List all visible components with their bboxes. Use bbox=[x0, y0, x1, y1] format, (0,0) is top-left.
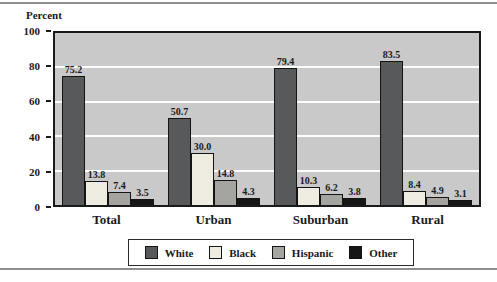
bar-value-label: 13.8 bbox=[88, 169, 106, 180]
x-category-label-urban: Urban bbox=[160, 212, 267, 228]
legend-label: Other bbox=[369, 247, 397, 259]
bar-value-label: 79.4 bbox=[277, 56, 295, 67]
bar-hispanic-suburban: 6.2 bbox=[320, 194, 343, 205]
x-category-label-rural: Rural bbox=[374, 212, 481, 228]
y-tick-mark bbox=[46, 136, 51, 138]
bar-value-label: 14.8 bbox=[217, 168, 235, 179]
y-tick-label: 40 bbox=[29, 131, 40, 143]
legend-label: Black bbox=[229, 247, 256, 259]
y-axis: 020406080100 bbox=[0, 31, 51, 207]
bar-value-label: 10.3 bbox=[300, 175, 318, 186]
y-tick-mark bbox=[46, 65, 51, 67]
legend-swatch-icon bbox=[145, 246, 158, 259]
legend-item-black: Black bbox=[209, 246, 256, 259]
bar-black-rural: 8.4 bbox=[403, 191, 426, 205]
top-rule bbox=[0, 2, 497, 4]
bar-value-label: 6.2 bbox=[325, 182, 338, 193]
bar-value-label: 7.4 bbox=[113, 180, 126, 191]
bottom-rule bbox=[0, 268, 497, 270]
bar-groups: 75.213.87.43.550.730.014.84.379.410.36.2… bbox=[55, 33, 479, 205]
bar-value-label: 3.1 bbox=[454, 188, 467, 199]
y-tick-mark bbox=[46, 100, 51, 102]
legend-item-hispanic: Hispanic bbox=[272, 246, 334, 259]
y-tick-mark bbox=[46, 171, 51, 173]
bar-value-label: 30.0 bbox=[194, 141, 212, 152]
y-tick-label: 0 bbox=[35, 201, 41, 213]
x-category-label-total: Total bbox=[53, 212, 160, 228]
bar-value-label: 4.9 bbox=[431, 185, 444, 196]
bar-black-suburban: 10.3 bbox=[297, 187, 320, 205]
legend-swatch-icon bbox=[272, 246, 285, 259]
bar-value-label: 50.7 bbox=[171, 106, 189, 117]
bar-value-label: 3.8 bbox=[348, 186, 361, 197]
legend-swatch-icon bbox=[209, 246, 222, 259]
legend-item-other: Other bbox=[349, 246, 397, 259]
y-tick-label: 20 bbox=[29, 166, 40, 178]
bar-group-rural: 83.58.44.93.1 bbox=[373, 33, 479, 205]
bar-white-total: 75.2 bbox=[62, 76, 85, 205]
bar-value-label: 3.5 bbox=[136, 187, 149, 198]
bar-value-label: 8.4 bbox=[408, 179, 421, 190]
bar-chart-figure: Percent 020406080100 75.213.87.43.550.73… bbox=[0, 0, 497, 282]
bar-hispanic-rural: 4.9 bbox=[426, 197, 449, 205]
bar-other-total: 3.5 bbox=[131, 199, 154, 205]
y-tick-label: 80 bbox=[29, 60, 40, 72]
bar-other-rural: 3.1 bbox=[449, 200, 472, 205]
legend-swatch-icon bbox=[349, 246, 362, 259]
bar-other-suburban: 3.8 bbox=[343, 198, 366, 205]
bar-group-total: 75.213.87.43.5 bbox=[55, 33, 161, 205]
bar-value-label: 4.3 bbox=[242, 186, 255, 197]
bar-white-rural: 83.5 bbox=[380, 61, 403, 205]
bar-other-urban: 4.3 bbox=[237, 198, 260, 205]
y-tick-mark bbox=[46, 30, 51, 32]
x-category-label-suburban: Suburban bbox=[267, 212, 374, 228]
x-axis-category-labels: TotalUrbanSuburbanRural bbox=[53, 212, 481, 228]
plot-area: 75.213.87.43.550.730.014.84.379.410.36.2… bbox=[53, 31, 481, 207]
bar-group-urban: 50.730.014.84.3 bbox=[161, 33, 267, 205]
bar-black-urban: 30.0 bbox=[191, 153, 214, 205]
bar-hispanic-urban: 14.8 bbox=[214, 180, 237, 205]
y-axis-title: Percent bbox=[26, 9, 62, 21]
legend-item-white: White bbox=[145, 246, 194, 259]
bar-value-label: 75.2 bbox=[65, 64, 83, 75]
bar-hispanic-total: 7.4 bbox=[108, 192, 131, 205]
bar-black-total: 13.8 bbox=[85, 181, 108, 205]
bar-white-suburban: 79.4 bbox=[274, 68, 297, 205]
y-tick-mark bbox=[46, 206, 51, 208]
legend-label: Hispanic bbox=[292, 247, 334, 259]
bar-white-urban: 50.7 bbox=[168, 118, 191, 205]
legend-box: WhiteBlackHispanicOther bbox=[128, 239, 414, 266]
bar-value-label: 83.5 bbox=[383, 49, 401, 60]
y-tick-label: 100 bbox=[24, 25, 41, 37]
bar-group-suburban: 79.410.36.23.8 bbox=[267, 33, 373, 205]
legend-label: White bbox=[165, 247, 194, 259]
y-tick-label: 60 bbox=[29, 95, 40, 107]
